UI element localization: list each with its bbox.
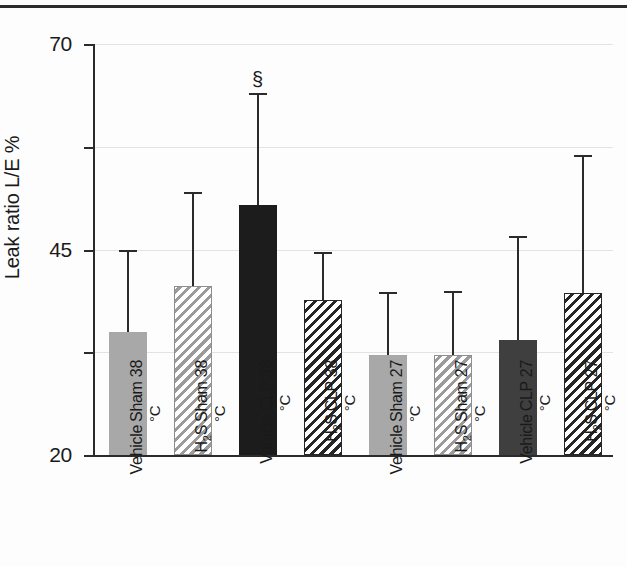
x-label-line1: Sham 38°C — [128, 360, 164, 422]
x-axis-tick-label-2: CLP 38°CVehicle — [258, 360, 294, 464]
error-bar-stem-2 — [257, 93, 259, 205]
error-bar-cap-0 — [119, 250, 137, 252]
x-axis-tick-label-6: CLP 27°CVehicle — [518, 360, 554, 464]
y-axis-tick — [84, 455, 95, 457]
x-axis-tick-label-group-6: CLP 27°CVehicle — [498, 464, 538, 564]
x-label-line2: H2S — [583, 414, 619, 441]
x-axis-tick-label-group-1: Sham 38°CH2S — [173, 464, 213, 564]
x-label-line1: CLP 38°C — [258, 360, 294, 411]
error-bar-cap-3 — [314, 252, 332, 254]
x-label-line1: CLP 27°C — [518, 360, 554, 411]
error-bar-stem-5 — [452, 291, 454, 355]
error-bar-stem-1 — [192, 192, 194, 286]
x-label-line1: CLP 27°C — [583, 360, 619, 411]
x-axis-tick-label-group-5: Sham 27°CH2S — [433, 464, 473, 564]
x-axis-tick-label-4: Sham 27°CVehicle — [388, 360, 424, 464]
x-label-line1: Sham 27°C — [388, 360, 424, 422]
error-bar-cap-6 — [509, 236, 527, 238]
x-axis-tick-label-group-2: CLP 38°CVehicle — [238, 464, 278, 564]
significance-marker: § — [238, 69, 278, 89]
x-axis-tick-label-7: CLP 27°CH2S — [583, 360, 619, 464]
x-axis-tick-label-1: Sham 38°CH2S — [193, 360, 229, 464]
x-label-line2: H2S — [453, 425, 489, 452]
y-axis-tick-label: 70 — [28, 33, 72, 54]
error-bar-stem-4 — [387, 292, 389, 354]
x-axis-tick-label-5: Sham 27°CH2S — [453, 360, 489, 464]
error-bar-stem-3 — [322, 252, 324, 300]
y-axis-tick-label: 20 — [28, 444, 72, 465]
x-axis-tick-label-group-7: CLP 27°CH2S — [563, 464, 603, 564]
x-label-line2: H2S — [193, 425, 229, 452]
x-axis-tick-label-group-4: Sham 27°CVehicle — [368, 464, 408, 564]
figure-panel: Leak ratio L/E % 204570 § Sham 38°CVehic… — [0, 0, 627, 567]
error-bar-cap-7 — [574, 155, 592, 157]
x-axis-tick-label-group-3: CLP 38°CH2S — [303, 464, 343, 564]
x-label-line2: H2S — [323, 414, 359, 441]
y-axis-tick-label: 45 — [28, 239, 72, 260]
error-bar-stem-0 — [127, 250, 129, 332]
error-bar-stem-6 — [517, 236, 519, 340]
x-label-line2: Vehicle — [518, 414, 554, 464]
error-bar-cap-1 — [184, 192, 202, 194]
error-bar-stem-7 — [582, 155, 584, 293]
error-bar-cap-5 — [444, 291, 462, 293]
error-bar-cap-4 — [379, 292, 397, 294]
x-axis-tick-label-group-0: Sham 38°CVehicle — [108, 464, 148, 564]
error-bar-cap-2 — [249, 93, 267, 95]
x-label-line1: Sham 27°C — [453, 360, 489, 422]
x-axis-tick-label-0: Sham 38°CVehicle — [128, 360, 164, 464]
x-label-line2: Vehicle — [388, 425, 424, 475]
figure-top-rule — [0, 5, 627, 8]
y-axis-label: Leak ratio L/E % — [1, 28, 24, 388]
x-axis-tick-label-3: CLP 38°CH2S — [323, 360, 359, 464]
x-label-line2: Vehicle — [258, 414, 294, 464]
x-label-line1: CLP 38°C — [323, 360, 359, 411]
x-label-line2: Vehicle — [128, 425, 164, 475]
x-label-line1: Sham 38°C — [193, 360, 229, 422]
